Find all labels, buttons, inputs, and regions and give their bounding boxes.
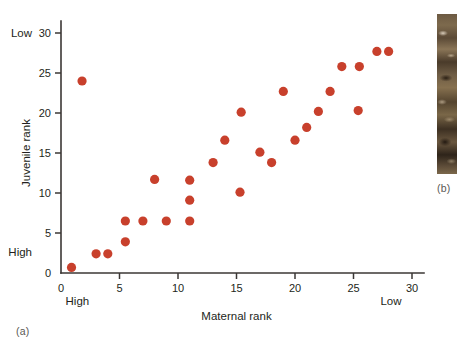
panel-a-tag: (a) — [16, 325, 29, 337]
x-axis-title: Maternal rank — [201, 310, 272, 320]
data-point — [77, 76, 86, 85]
y-axis-title: Juvenile rank — [20, 119, 32, 187]
data-point — [235, 188, 244, 197]
axes-group — [61, 21, 424, 273]
data-point — [121, 216, 130, 225]
data-point — [290, 136, 299, 145]
panel-a-scatter-plot: 051015202530051015202530 Maternal rankJu… — [0, 0, 430, 352]
y-tick-label-10: 10 — [39, 187, 51, 199]
x-tick-label-25: 25 — [347, 282, 359, 294]
data-point — [150, 175, 159, 184]
data-point — [354, 106, 363, 115]
data-point — [384, 47, 393, 56]
panel-b-photo — [437, 14, 457, 174]
y-tick-label-20: 20 — [39, 107, 51, 119]
data-points-group — [67, 47, 393, 272]
data-point — [337, 62, 346, 71]
y-axis-low-end-label: Low — [11, 27, 33, 39]
y-tick-label-25: 25 — [39, 67, 51, 79]
x-tick-label-5: 5 — [116, 282, 122, 294]
data-point — [267, 158, 276, 167]
data-point — [372, 47, 381, 56]
data-point — [355, 62, 364, 71]
data-point — [67, 263, 76, 272]
data-point — [314, 107, 323, 116]
x-axis-high-end-label: High — [66, 295, 90, 307]
data-point — [237, 108, 246, 117]
figure-container: 051015202530051015202530 Maternal rankJu… — [0, 0, 459, 352]
x-tick-label-20: 20 — [289, 282, 301, 294]
y-tick-label-15: 15 — [39, 147, 51, 159]
x-axis-low-end-label: Low — [380, 295, 402, 307]
x-tick-label-0: 0 — [58, 282, 64, 294]
data-point — [185, 196, 194, 205]
data-point — [121, 237, 130, 246]
data-point — [138, 216, 147, 225]
data-point — [185, 176, 194, 185]
data-point — [220, 136, 229, 145]
data-point — [255, 148, 264, 157]
data-point — [162, 216, 171, 225]
x-tick-label-10: 10 — [172, 282, 184, 294]
data-point — [92, 249, 101, 258]
data-point — [209, 158, 218, 167]
data-point — [326, 87, 335, 96]
y-tick-label-0: 0 — [45, 267, 51, 279]
panel-b-tag: (b) — [437, 182, 450, 194]
data-point — [185, 216, 194, 225]
x-tick-label-30: 30 — [406, 282, 418, 294]
habitat-photograph — [437, 14, 457, 174]
y-tick-label-30: 30 — [39, 27, 51, 39]
y-tick-label-5: 5 — [45, 227, 51, 239]
data-point — [302, 123, 311, 132]
scatter-plot-svg: 051015202530051015202530 Maternal rankJu… — [0, 0, 430, 320]
data-point — [103, 249, 112, 258]
y-axis-high-end-label: High — [8, 246, 32, 258]
data-point — [279, 87, 288, 96]
x-tick-label-15: 15 — [230, 282, 242, 294]
